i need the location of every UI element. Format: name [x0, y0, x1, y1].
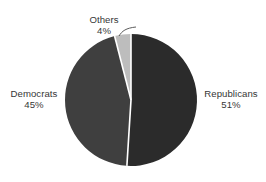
pie-slice-republicans[interactable]: [127, 34, 197, 166]
pie-label-republicans-percent: 51%: [198, 99, 264, 110]
pie-label-democrats: Democrats 45%: [2, 88, 66, 111]
pie-label-republicans-name: Republicans: [198, 88, 264, 99]
pie-label-others-percent: 4%: [72, 25, 136, 36]
pie-label-republicans: Republicans 51%: [198, 88, 264, 111]
pie-chart: Others 4% Democrats 45% Republicans 51%: [0, 0, 266, 182]
pie-label-democrats-percent: 45%: [2, 99, 66, 110]
pie-label-others-name: Others: [72, 14, 136, 25]
pie-label-others: Others 4%: [72, 14, 136, 37]
pie-label-democrats-name: Democrats: [2, 88, 66, 99]
